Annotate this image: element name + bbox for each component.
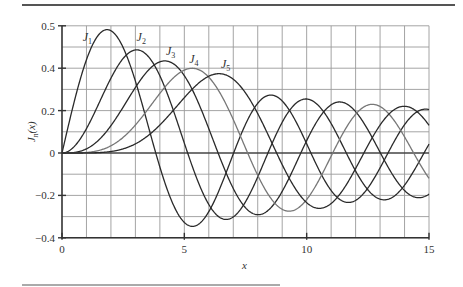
- axes: [58, 26, 429, 240]
- bessel-chart: J1J2J3J4J50.50.40.20−0.2−0.4051015xJn(x): [0, 0, 463, 287]
- y-tick-label: 0.2: [41, 105, 55, 117]
- y-tick-label: 0: [50, 147, 56, 159]
- x-tick-label: 15: [424, 243, 436, 255]
- x-tick-label: 10: [301, 243, 313, 255]
- y-tick-label: −0.4: [35, 232, 55, 244]
- x-tick-label: 0: [59, 243, 65, 255]
- grid: [62, 26, 429, 238]
- curve-j3: [62, 61, 429, 215]
- x-axis-label: x: [241, 259, 247, 271]
- x-tick-label: 5: [182, 243, 188, 255]
- curve-label-j2: J2: [137, 30, 146, 46]
- curve-label-j5: J5: [221, 57, 230, 73]
- y-tick-label: 0.4: [41, 62, 55, 74]
- curves: [62, 30, 429, 227]
- y-tick-label: −0.2: [35, 189, 55, 201]
- y-tick-label: 0.5: [41, 20, 55, 32]
- curve-j1: [62, 30, 429, 227]
- curve-label-j4: J4: [189, 52, 198, 68]
- bottom-rule: [22, 284, 280, 286]
- curve-label-j1: J1: [83, 30, 92, 46]
- y-axis-label: Jn(x): [25, 121, 40, 142]
